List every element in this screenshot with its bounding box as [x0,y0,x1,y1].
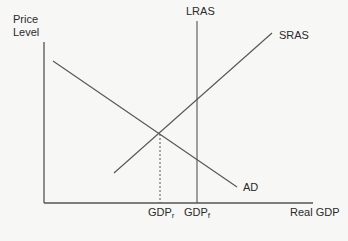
y-axis-label-line1: Price [13,13,38,25]
y-axis-label-line2: Level [13,26,39,38]
ad-label: AD [243,181,258,193]
ad-as-diagram: Price Level Real GDP LRAS SRAS AD GDPr G… [0,0,348,241]
lras-label: LRAS [186,5,215,17]
x-axis-label: Real GDP [290,206,340,218]
gdp-f-sub: f [208,211,211,220]
sras-label: SRAS [279,29,309,41]
ad-curve [53,61,237,187]
gdp-f-label: GDPf [184,206,211,220]
gdp-r-label: GDPr [148,206,175,220]
gdp-r-sub: r [172,211,175,220]
sras-curve [114,33,272,173]
gdp-r-main: GDP [148,206,172,218]
gdp-f-main: GDP [184,206,208,218]
